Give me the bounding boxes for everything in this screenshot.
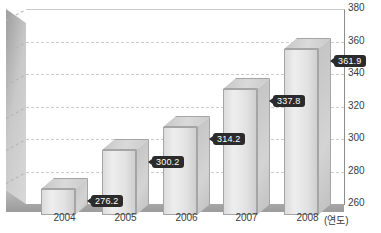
data-label-2004: 276.2 [91,195,123,207]
x-axis-title: (연도) [324,212,349,227]
y-axis-tick-label: 380 [348,2,378,13]
y-axis-tick-label: 280 [348,165,378,176]
x-axis-tick-label: 2005 [106,212,146,223]
y-axis-tick-label: 340 [348,67,378,78]
x-axis-tick-label: 2008 [288,212,328,223]
bar-front-face [163,127,197,215]
bar-front-face [284,49,318,215]
x-axis-tick-label: 2007 [227,212,267,223]
x-axis-tick-label: 2006 [167,212,207,223]
data-label-2005: 300.2 [152,156,184,168]
bar-side-face [136,139,149,215]
gridline [26,9,344,10]
chart-left-wall-3d [6,9,26,204]
data-label-2006: 314.2 [213,133,245,145]
data-label-2007: 337.8 [273,95,305,107]
x-axis-tick-label: 2004 [45,212,85,223]
bar-side-face [318,38,331,215]
bar-2008[interactable] [284,38,331,215]
y-axis-tick-label: 320 [348,100,378,111]
data-label-2008: 361.9 [334,55,366,67]
y-axis-tick-label: 300 [348,132,378,143]
y-axis-tick-label: 260 [348,197,378,208]
bar-side-face [197,116,210,215]
bar-chart: 260280300320340360380 276.2300.2314.2337… [0,0,381,233]
y-axis-tick-label: 360 [348,35,378,46]
chart-title [0,0,381,2]
bar-front-face [223,89,257,215]
bar-2004[interactable] [41,178,88,215]
bar-2007[interactable] [223,78,270,215]
